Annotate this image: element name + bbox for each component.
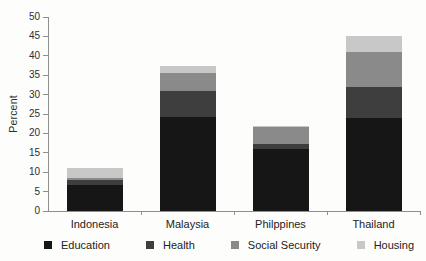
bar-segment-education <box>253 149 309 211</box>
x-category-label: Malaysia <box>141 218 234 230</box>
y-tick-label: 25 <box>12 108 40 120</box>
bar-segment-education <box>67 185 123 211</box>
stacked-bar-chart-figure: Percent 05101520253035404550IndonesiaMal… <box>0 0 426 261</box>
bar-segment-health <box>346 87 402 118</box>
x-tick <box>234 211 235 215</box>
y-axis-line <box>48 17 49 211</box>
legend-label: Social Security <box>248 239 321 251</box>
bar-segment-housing <box>67 168 123 178</box>
y-tick-label: 15 <box>12 147 40 159</box>
legend-swatch <box>146 241 154 249</box>
x-tick <box>141 211 142 215</box>
legend: EducationHealthSocial SecurityHousing <box>44 239 414 251</box>
legend-swatch <box>357 241 365 249</box>
legend-item: Education <box>44 239 110 251</box>
x-category-label: Thailand <box>327 218 420 230</box>
bar-segment-housing <box>253 126 309 127</box>
bar-segment-health <box>160 91 216 116</box>
bar-segment-health <box>67 180 123 184</box>
x-tick <box>420 211 421 215</box>
bar-segment-social-security <box>253 127 309 144</box>
bar-segment-health <box>253 144 309 149</box>
bar-segment-social-security <box>67 178 123 180</box>
bar-segment-education <box>346 118 402 211</box>
y-tick-label: 5 <box>12 186 40 198</box>
legend-item: Housing <box>357 239 414 251</box>
bar-segment-social-security <box>160 73 216 91</box>
legend-label: Education <box>61 239 110 251</box>
legend-label: Health <box>163 239 195 251</box>
y-tick-label: 40 <box>12 50 40 62</box>
bar-segment-education <box>160 117 216 211</box>
x-category-label: Indonesia <box>48 218 141 230</box>
legend-label: Housing <box>374 239 414 251</box>
y-tick-label: 30 <box>12 89 40 101</box>
y-tick-label: 35 <box>12 69 40 81</box>
bar-segment-housing <box>346 36 402 52</box>
legend-swatch <box>231 241 239 249</box>
y-tick-label: 50 <box>12 11 40 23</box>
x-category-label: Philppines <box>234 218 327 230</box>
legend-item: Health <box>146 239 195 251</box>
bar-segment-housing <box>160 66 216 74</box>
y-tick-label: 45 <box>12 30 40 42</box>
legend-swatch <box>44 241 52 249</box>
bar-segment-social-security <box>346 52 402 87</box>
y-tick-label: 20 <box>12 127 40 139</box>
y-tick-label: 0 <box>12 205 40 217</box>
legend-item: Social Security <box>231 239 321 251</box>
x-tick <box>327 211 328 215</box>
y-tick-label: 10 <box>12 166 40 178</box>
